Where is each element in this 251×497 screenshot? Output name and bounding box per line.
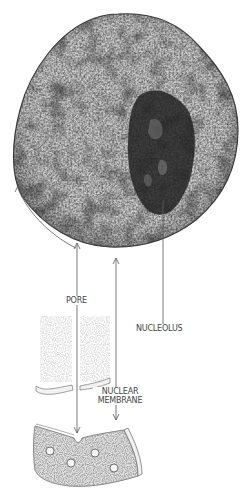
nucleus-diagram: PORE NUCLEOLUS NUCLEAR MEMBRANE [0,0,251,497]
pore-hole-4 [110,464,118,472]
nucleus [0,0,251,260]
membrane-side-view [36,316,110,394]
nucleolus-label: NUCLEOLUS [136,324,182,333]
nuclear-membrane-label: NUCLEAR MEMBRANE [93,387,147,405]
diagram-canvas [0,0,251,497]
pore-hole-3 [91,449,99,457]
membrane-fragment [34,424,143,486]
pore-hole-1 [46,447,54,455]
nuclear-membrane-label-line2: MEMBRANE [93,396,147,405]
nuclear-membrane-label-line1: NUCLEAR [93,387,147,396]
pore-label: PORE [66,296,87,305]
pore-hole-2 [67,459,75,467]
